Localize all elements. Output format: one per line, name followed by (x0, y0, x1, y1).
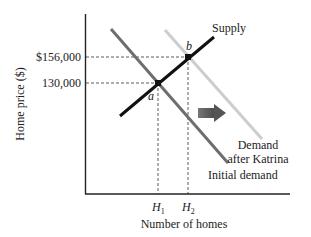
demand-after-label-line1: Demand (238, 138, 279, 152)
initial-demand-curve (111, 29, 228, 163)
point-b-label: b (186, 39, 192, 53)
demand-after-katrina-curve (165, 30, 262, 139)
x-axis-title: Number of homes (141, 217, 228, 231)
y-tick-156000: $156,000 (36, 50, 81, 64)
point-b-marker (185, 54, 191, 60)
x-tick-h1: H1 (151, 200, 165, 216)
supply-curve (120, 37, 214, 116)
shift-right-arrow-icon (198, 104, 226, 122)
demand-after-label-line2: after Katrina (228, 152, 290, 166)
y-tick-130000: 130,000 (42, 76, 81, 90)
y-axis-title: Home price ($) (13, 67, 27, 140)
initial-demand-label: Initial demand (208, 168, 278, 182)
point-a-marker (155, 80, 161, 86)
supply-demand-diagram: Supply b a $156,000 130,000 Demand after… (0, 0, 311, 237)
x-tick-h2: H2 (181, 200, 195, 216)
point-a-label: a (148, 89, 154, 103)
supply-label: Supply (212, 21, 246, 35)
